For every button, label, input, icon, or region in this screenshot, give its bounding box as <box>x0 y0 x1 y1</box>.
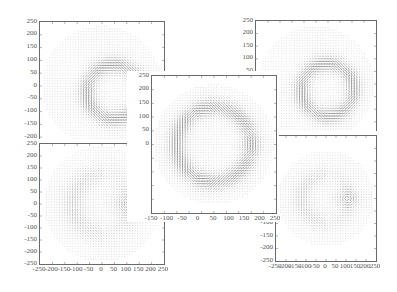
y-tick-label: 250 <box>15 18 37 25</box>
x-tick-label: 0 <box>196 215 200 222</box>
x-tick-label: 100 <box>121 266 132 273</box>
y-tick-label: 150 <box>15 164 37 171</box>
vector-field-bottom-right <box>276 136 376 261</box>
y-tick-label: -200 <box>251 244 273 251</box>
y-tick-label: -100 <box>15 224 37 231</box>
x-tick-label: 0 <box>323 263 327 270</box>
y-tick-label: -150 <box>251 232 273 239</box>
y-tick-label: 100 <box>15 56 37 63</box>
y-tick-label: -50 <box>15 212 37 219</box>
x-tick-label: 250 <box>370 263 381 270</box>
y-tick-label: 200 <box>127 85 149 92</box>
x-tick-label: 0 <box>99 266 103 273</box>
y-tick-label: 50 <box>15 188 37 195</box>
x-tick-label: 150 <box>133 266 144 273</box>
vector-field-center <box>152 76 276 213</box>
x-tick-label: 250 <box>270 215 281 222</box>
x-tick-label: 150 <box>239 215 250 222</box>
y-tick-label: -50 <box>15 94 37 101</box>
x-tick-label: 50 <box>110 266 117 273</box>
x-tick-label: 200 <box>360 263 371 270</box>
y-tick-label: 150 <box>127 99 149 106</box>
x-tick-label: 250 <box>158 266 169 273</box>
y-tick-label: -200 <box>15 248 37 255</box>
x-tick-label: -150 <box>145 215 158 222</box>
x-tick-label: -100 <box>70 266 83 273</box>
x-tick-label: -150 <box>57 266 70 273</box>
y-tick-label: 150 <box>15 43 37 50</box>
y-tick-label: -150 <box>15 120 37 127</box>
y-tick-label: 250 <box>231 17 253 24</box>
y-tick-label: 200 <box>15 30 37 37</box>
y-tick-label: -150 <box>15 236 37 243</box>
x-tick-label: 150 <box>350 263 361 270</box>
y-tick-label: 200 <box>231 29 253 36</box>
plot-panel-center: 250200150100500-150-100-5005010015020025… <box>127 71 279 222</box>
y-tick-label: 50 <box>127 126 149 133</box>
x-tick-label: 50 <box>210 215 217 222</box>
x-tick-label: -50 <box>84 266 93 273</box>
x-tick-label: -50 <box>310 263 319 270</box>
y-tick-label: 0 <box>15 200 37 207</box>
y-tick-label: 250 <box>127 72 149 79</box>
y-tick-label: -100 <box>15 107 37 114</box>
y-tick-label: 0 <box>127 140 149 147</box>
x-tick-label: 200 <box>254 215 265 222</box>
y-tick-label: 100 <box>231 54 253 61</box>
x-tick-label: 50 <box>332 263 339 270</box>
y-tick-label: 150 <box>231 42 253 49</box>
y-tick-label: 50 <box>15 69 37 76</box>
x-tick-label: -100 <box>160 215 173 222</box>
y-tick-label: 200 <box>15 152 37 159</box>
x-tick-label: 100 <box>223 215 234 222</box>
plot-area-center <box>151 75 277 214</box>
y-tick-label: 100 <box>127 113 149 120</box>
x-tick-label: 200 <box>145 266 156 273</box>
y-tick-label: 100 <box>15 176 37 183</box>
x-tick-label: -200 <box>45 266 58 273</box>
plot-area-bottom-right <box>275 135 377 262</box>
x-tick-label: 100 <box>340 263 351 270</box>
y-tick-label: 0 <box>15 82 37 89</box>
y-tick-label: 250 <box>15 140 37 147</box>
x-tick-label: -250 <box>33 266 46 273</box>
x-tick-label: -50 <box>177 215 186 222</box>
